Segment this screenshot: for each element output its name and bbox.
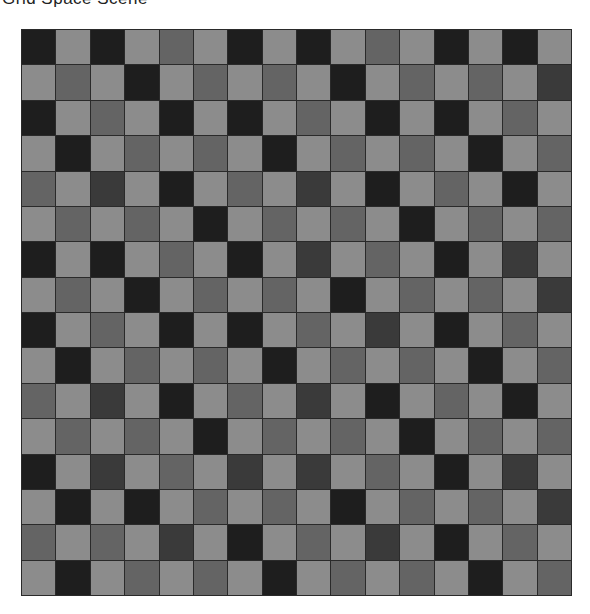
grid-cell [56, 313, 89, 347]
grid-cell [194, 561, 227, 595]
grid-cell [194, 419, 227, 453]
grid-cell [469, 278, 502, 312]
grid-cell [160, 65, 193, 99]
grid-cell [160, 490, 193, 524]
grid-cell [331, 525, 364, 559]
grid-cell [228, 172, 261, 206]
grid-cell [331, 419, 364, 453]
grid-cell [22, 455, 55, 489]
grid-cell [469, 348, 502, 382]
grid-cell [91, 525, 124, 559]
grid-cell [125, 242, 158, 276]
grid-cell [22, 30, 55, 64]
grid-cell [22, 278, 55, 312]
grid-cell [400, 136, 433, 170]
grid-cell [366, 313, 399, 347]
grid-cell [263, 278, 296, 312]
grid-cell [125, 348, 158, 382]
grid-cell [160, 525, 193, 559]
grid-cell [91, 278, 124, 312]
grid-cell [400, 561, 433, 595]
grid-cell [435, 455, 468, 489]
grid-cell [56, 101, 89, 135]
grid-cell [194, 313, 227, 347]
grid-cell [263, 313, 296, 347]
grid-cell [263, 384, 296, 418]
grid-cell [160, 242, 193, 276]
grid-cell [366, 101, 399, 135]
grid-cell [194, 384, 227, 418]
grid-cell [56, 65, 89, 99]
grid-cell [469, 65, 502, 99]
grid-cell [400, 384, 433, 418]
grid-cell [228, 207, 261, 241]
grid-cell [125, 172, 158, 206]
grid-cell [263, 561, 296, 595]
grid-cell [400, 490, 433, 524]
grid-cell [469, 455, 502, 489]
grid-cell [297, 490, 330, 524]
grid-cell [297, 313, 330, 347]
grid-cell [22, 490, 55, 524]
grid-cell [331, 136, 364, 170]
grid-cell [56, 384, 89, 418]
grid-cell [297, 242, 330, 276]
grid-cell [435, 313, 468, 347]
grid-cell [503, 101, 536, 135]
grid-cell [22, 65, 55, 99]
grid-cell [194, 136, 227, 170]
grid-cell [503, 30, 536, 64]
grid-cell [331, 490, 364, 524]
grid-cell [469, 172, 502, 206]
grid-cell [160, 278, 193, 312]
grid-cell [366, 384, 399, 418]
grid-cell [228, 136, 261, 170]
grid-cell [469, 490, 502, 524]
grid-cell [435, 490, 468, 524]
grid-cell [400, 207, 433, 241]
grid-cell [331, 101, 364, 135]
grid-cell [228, 348, 261, 382]
grid-cell [56, 172, 89, 206]
grid-cell [125, 419, 158, 453]
grid-cell [125, 384, 158, 418]
grid-cell [160, 30, 193, 64]
grid-cell [366, 65, 399, 99]
grid-cell [331, 242, 364, 276]
grid-cell [91, 172, 124, 206]
grid-cell [538, 561, 571, 595]
grid-cell [469, 30, 502, 64]
grid-cell [400, 101, 433, 135]
grid-cell [297, 455, 330, 489]
header-title: Grid Space Scene [2, 0, 148, 9]
grid-cell [228, 490, 261, 524]
grid-cell [297, 136, 330, 170]
grid-cell [366, 136, 399, 170]
grid-cell [297, 348, 330, 382]
grid-cell [91, 65, 124, 99]
grid-cell [228, 30, 261, 64]
grid-cell [297, 30, 330, 64]
grid-cell [297, 65, 330, 99]
grid-cell [469, 561, 502, 595]
grid-cell [56, 455, 89, 489]
grid-cell [91, 101, 124, 135]
grid-cell [503, 65, 536, 99]
grid-cell [366, 348, 399, 382]
grid-cell [56, 207, 89, 241]
grid-cell [435, 384, 468, 418]
grid-cell [22, 136, 55, 170]
grid-cell [503, 313, 536, 347]
grid-cell [435, 278, 468, 312]
grid-cell [228, 242, 261, 276]
grid-cell [194, 101, 227, 135]
grid-cell [503, 348, 536, 382]
grid-cell [435, 136, 468, 170]
grid-cell [538, 384, 571, 418]
grid-cell [125, 561, 158, 595]
grid-cell [366, 30, 399, 64]
grid-cell [56, 136, 89, 170]
grid-cell [22, 525, 55, 559]
grid-cell [56, 525, 89, 559]
grid-cell [297, 172, 330, 206]
